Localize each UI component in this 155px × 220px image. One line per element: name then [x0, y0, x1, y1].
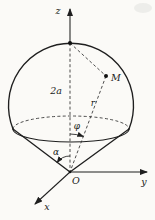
x-axis-label: x: [44, 201, 50, 212]
north-pole-dot: [68, 41, 72, 45]
intersection-circle-back: [13, 116, 129, 129]
alpha-angle-label: α: [53, 147, 59, 157]
scan-artifact: [134, 3, 152, 13]
origin-dot: [69, 171, 72, 174]
x-axis: [35, 172, 70, 204]
y-axis-label: y: [140, 176, 147, 187]
radius-r-label: r: [91, 98, 96, 108]
cone-left-side: [13, 129, 70, 172]
z-axis-label: z: [54, 5, 61, 16]
point-m-dot: [104, 74, 108, 78]
phi-angle-arc: [70, 134, 83, 136]
point-m-label: M: [110, 72, 121, 83]
sphere-cone-figure: z 2a M r φ α O y x: [0, 0, 155, 220]
phi-angle-label: φ: [74, 121, 81, 131]
sphere-outline: [9, 43, 134, 129]
intersection-circle-front: [13, 129, 129, 142]
figure-canvas: z 2a M r φ α O y x: [0, 0, 155, 220]
origin-label: O: [72, 175, 80, 186]
pole-to-m-chord: [70, 43, 106, 76]
diameter-2a-label: 2a: [49, 85, 62, 96]
